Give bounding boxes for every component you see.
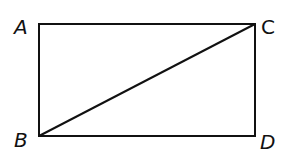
rectangle-diagram: A C B D [0, 0, 285, 154]
vertex-label-b: B [14, 128, 28, 152]
vertex-label-d: D [260, 130, 275, 154]
vertex-label-c: C [261, 15, 275, 39]
diagonal-bc [39, 24, 255, 136]
vertex-label-a: A [12, 15, 28, 39]
